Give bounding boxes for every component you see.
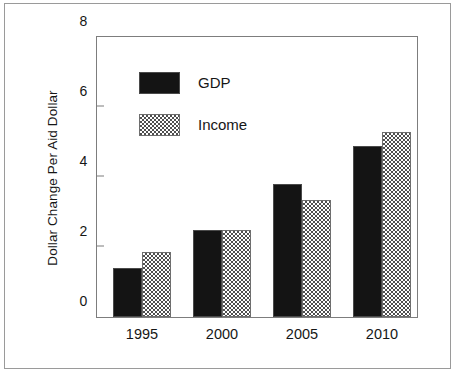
y-tick-label: 4 — [80, 153, 88, 169]
legend-label-gdp: GDP — [198, 69, 231, 97]
legend-swatch-income — [139, 114, 180, 136]
bar-income-2005 — [302, 200, 331, 317]
bar-chart-figure: Dollar Change Per Aid Dollar 02468 19952… — [0, 0, 455, 373]
bar-group: 2010 — [353, 37, 411, 317]
bar-group: 2005 — [273, 37, 331, 317]
x-tick-label: 2000 — [206, 326, 238, 342]
legend-label-income: Income — [198, 111, 247, 139]
y-tick-label: 0 — [80, 293, 88, 309]
x-tick-label: 1995 — [126, 326, 158, 342]
bar-gdp-2000 — [193, 230, 222, 318]
bar-gdp-1995 — [113, 268, 142, 317]
bar-gdp-2005 — [273, 184, 302, 317]
y-tick-label: 8 — [80, 13, 88, 29]
legend-swatch-gdp — [139, 72, 180, 94]
bar-income-1995 — [142, 252, 171, 317]
y-tick-label: 6 — [80, 83, 88, 99]
bar-gdp-2010 — [353, 146, 382, 318]
y-tick-mark — [97, 176, 104, 177]
y-tick-mark — [97, 106, 104, 107]
x-tick-label: 2010 — [366, 326, 398, 342]
y-tick-mark — [97, 246, 104, 247]
y-axis-title: Dollar Change Per Aid Dollar — [42, 37, 64, 319]
bar-income-2000 — [222, 230, 251, 318]
bar-income-2010 — [382, 132, 411, 318]
plot-area: Dollar Change Per Aid Dollar 02468 19952… — [96, 36, 418, 318]
y-tick-label: 2 — [80, 223, 88, 239]
x-tick-label: 2005 — [286, 326, 318, 342]
